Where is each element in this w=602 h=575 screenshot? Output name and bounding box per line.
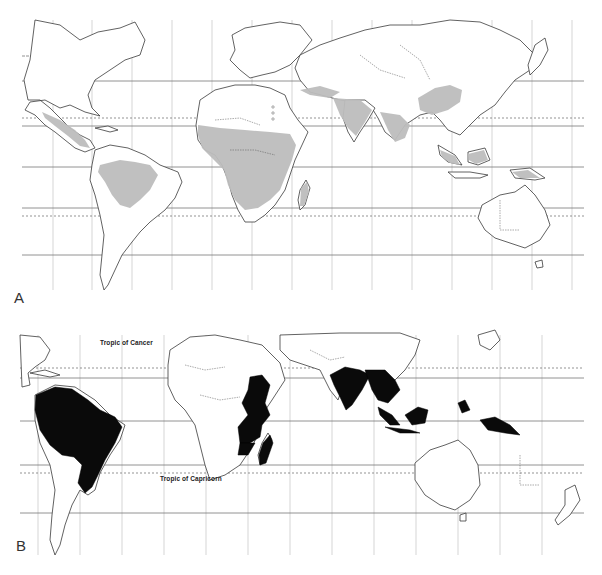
java-fill [385,427,420,433]
map-panel-b: Tropic of Cancer Tropic of Capricorn B [0,315,602,560]
zambia-fill [238,443,255,455]
tropic-of-capricorn-label: Tropic of Capricorn [160,475,222,482]
map-panel-a: A [0,0,602,315]
madagascar-fill [259,435,273,465]
panel-label-a: A [14,289,24,306]
tropic-of-cancer-label: Tropic of Cancer [100,339,153,346]
world-map-a [0,0,602,315]
new-guinea-fill [480,417,520,435]
philippines-fill [458,400,470,413]
world-map-b [0,315,602,560]
india-fill [330,367,370,410]
borneo-fill [405,407,428,425]
malay-sumatra-fill [378,407,400,425]
panel-label-b: B [16,537,26,554]
